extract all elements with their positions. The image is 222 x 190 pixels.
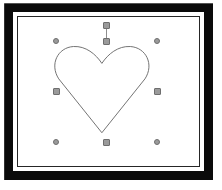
frame-keyline [17, 16, 200, 167]
handle-middle-right[interactable] [154, 88, 161, 95]
frame-mat [13, 12, 204, 171]
handle-bottom-right[interactable] [154, 139, 160, 145]
handle-bottom-center[interactable] [103, 139, 110, 146]
handle-top-center[interactable] [103, 38, 110, 45]
frame-outer-band [4, 3, 213, 180]
drawing-canvas[interactable] [18, 17, 199, 166]
handle-top-right[interactable] [154, 38, 160, 44]
handle-bottom-left[interactable] [53, 139, 59, 145]
handle-middle-left[interactable] [53, 88, 60, 95]
app-window [0, 0, 222, 190]
rotation-handle[interactable] [103, 22, 110, 29]
handle-top-left[interactable] [53, 38, 59, 44]
heart-shape[interactable] [55, 46, 149, 132]
